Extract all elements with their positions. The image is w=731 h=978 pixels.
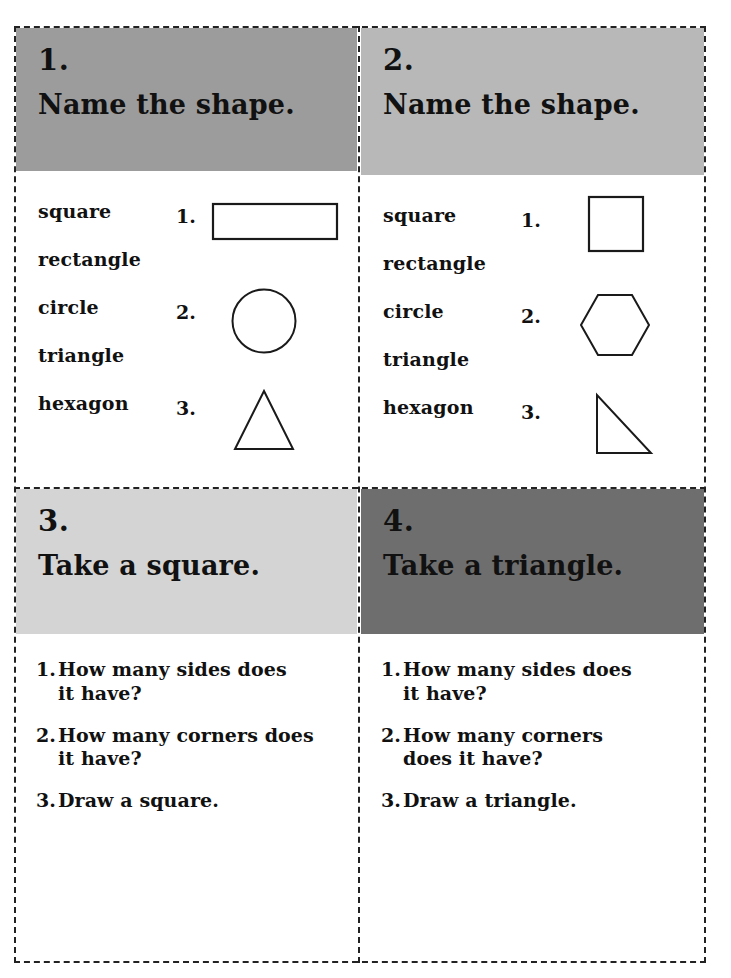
word-circle: circle xyxy=(38,283,188,331)
word-circle: circle xyxy=(383,287,533,335)
card-3-header: 3. Take a square. xyxy=(16,489,357,634)
card-3-question-list: 1. How many sides does it have? 2. How m… xyxy=(36,658,343,831)
square-shape-icon xyxy=(556,191,686,287)
card-2: 2. Name the shape. square rectangle circ… xyxy=(361,28,704,486)
card-2-item-3: 3. xyxy=(521,383,696,479)
card-1-header: 1. Name the shape. xyxy=(16,28,357,171)
card-1-word-list: square rectangle circle triangle hexagon xyxy=(38,187,188,427)
question-number: 1. xyxy=(36,658,58,682)
card-3-title: Take a square. xyxy=(38,552,357,580)
card-1-title: Name the shape. xyxy=(38,91,357,119)
rectangle-shape-icon xyxy=(211,187,341,283)
question-text: How many corners does it have? xyxy=(58,724,314,772)
card-4-header: 4. Take a triangle. xyxy=(361,489,704,634)
question-item: 2. How many corners does it have? xyxy=(381,724,690,772)
card-2-item-2: 2. xyxy=(521,287,696,383)
vertical-cut-divider xyxy=(358,26,360,963)
card-2-item-1-number: 1. xyxy=(521,209,541,231)
question-item: 1. How many sides does it have? xyxy=(381,658,690,706)
card-1: 1. Name the shape. square rectangle circ… xyxy=(16,28,357,486)
question-item: 3. Draw a square. xyxy=(36,789,343,813)
hexagon-shape-icon xyxy=(556,287,686,383)
word-hexagon: hexagon xyxy=(38,379,188,427)
card-2-shape-rows: 1. 2. 3. xyxy=(521,191,696,479)
card-1-item-3-number: 3. xyxy=(176,397,196,419)
question-text: How many corners does it have? xyxy=(403,724,603,772)
question-item: 2. How many corners does it have? xyxy=(36,724,343,772)
card-3-number: 3. xyxy=(38,507,357,536)
question-item: 3. Draw a triangle. xyxy=(381,789,690,813)
question-item: 1. How many sides does it have? xyxy=(36,658,343,706)
card-1-item-2-number: 2. xyxy=(176,301,196,323)
card-1-item-1: 1. xyxy=(176,187,351,283)
triangle-shape-icon xyxy=(211,379,341,475)
word-triangle: triangle xyxy=(38,331,188,379)
card-1-item-1-number: 1. xyxy=(176,205,196,227)
word-square: square xyxy=(383,191,533,239)
right-triangle-shape-icon xyxy=(556,383,686,479)
card-4-question-list: 1. How many sides does it have? 2. How m… xyxy=(381,658,690,831)
card-2-item-1: 1. xyxy=(521,191,696,287)
question-text: How many sides does it have? xyxy=(403,658,632,706)
card-2-word-list: square rectangle circle triangle hexagon xyxy=(383,191,533,431)
card-4-number: 4. xyxy=(383,507,704,536)
question-number: 3. xyxy=(36,789,58,813)
card-2-item-2-number: 2. xyxy=(521,305,541,327)
word-square: square xyxy=(38,187,188,235)
circle-shape-icon xyxy=(211,283,341,379)
question-number: 2. xyxy=(381,724,403,748)
card-4-title: Take a triangle. xyxy=(383,552,704,580)
card-4: 4. Take a triangle. 1. How many sides do… xyxy=(361,489,704,961)
word-hexagon: hexagon xyxy=(383,383,533,431)
question-number: 3. xyxy=(381,789,403,813)
card-2-number: 2. xyxy=(383,46,704,75)
card-1-shape-rows: 1. 2. 3. xyxy=(176,187,351,475)
card-2-item-3-number: 3. xyxy=(521,401,541,423)
card-1-item-3: 3. xyxy=(176,379,351,475)
word-rectangle: rectangle xyxy=(38,235,188,283)
card-2-header: 2. Name the shape. xyxy=(361,28,704,175)
question-text: Draw a square. xyxy=(58,789,219,813)
card-1-item-2: 2. xyxy=(176,283,351,379)
question-text: Draw a triangle. xyxy=(403,789,577,813)
word-triangle: triangle xyxy=(383,335,533,383)
word-rectangle: rectangle xyxy=(383,239,533,287)
question-number: 2. xyxy=(36,724,58,748)
card-2-title: Name the shape. xyxy=(383,91,704,119)
worksheet-page: 1. Name the shape. square rectangle circ… xyxy=(0,0,731,978)
question-number: 1. xyxy=(381,658,403,682)
question-text: How many sides does it have? xyxy=(58,658,287,706)
card-1-number: 1. xyxy=(38,46,357,75)
card-3: 3. Take a square. 1. How many sides does… xyxy=(16,489,357,961)
